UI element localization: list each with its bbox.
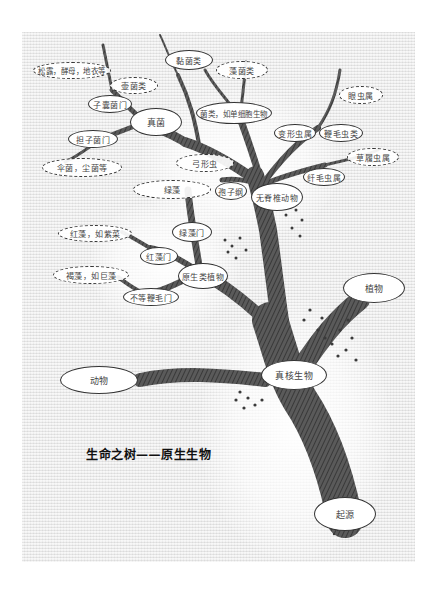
node-slime-molds: 黏菌类 — [165, 50, 213, 70]
node-root: 起源 — [314, 497, 376, 531]
node-green-algae-phylum: 绿藻门 — [172, 222, 212, 242]
node-mushrooms: 伞菌，尘菌等 — [42, 158, 122, 177]
node-truffles: 松露，酵母，地衣等 — [33, 62, 111, 79]
node-fungi: 真菌 — [130, 108, 182, 136]
diagram-title: 生命之树——原生生物 — [86, 445, 211, 462]
node-amoeba: 变形虫属 — [274, 124, 316, 142]
node-eye-worm: 眼虫属 — [339, 86, 383, 104]
node-brown-algae-eg: 褐藻，如巨藻 — [53, 266, 129, 284]
node-stramenopiles: 不等鞭毛门 — [123, 288, 179, 306]
node-algae-fungi: 藻菌类 — [216, 61, 268, 79]
node-basidiomycota: 担子菌门 — [68, 130, 118, 148]
node-animal: 动物 — [60, 366, 138, 394]
node-protist-plants: 原生类植物 — [178, 263, 228, 289]
node-chytrids: 壶菌类 — [110, 77, 158, 94]
node-flagellates: 鞭毛虫类 — [319, 124, 363, 142]
node-eukaryote: 真核生物 — [261, 360, 327, 390]
node-ascomycota: 子囊菌门 — [88, 95, 132, 113]
node-spore-class: 孢子纲 — [215, 182, 247, 200]
node-toxoplasma: 弓形虫 — [176, 154, 234, 172]
node-green-algae: 绿藻 — [133, 180, 211, 199]
node-red-algae-phylum: 红藻门 — [140, 247, 178, 265]
node-bacteria-like: 菌类，如单细胞生物 — [196, 102, 272, 124]
node-plant: 植物 — [343, 273, 405, 303]
node-ciliates: 纤毛虫属 — [303, 168, 345, 186]
node-red-algae-eg: 红藻，如紫菜 — [58, 225, 132, 242]
node-invertebrates: 无脊椎动物 — [251, 183, 303, 211]
node-trypanosome: 草履虫属 — [347, 148, 399, 166]
